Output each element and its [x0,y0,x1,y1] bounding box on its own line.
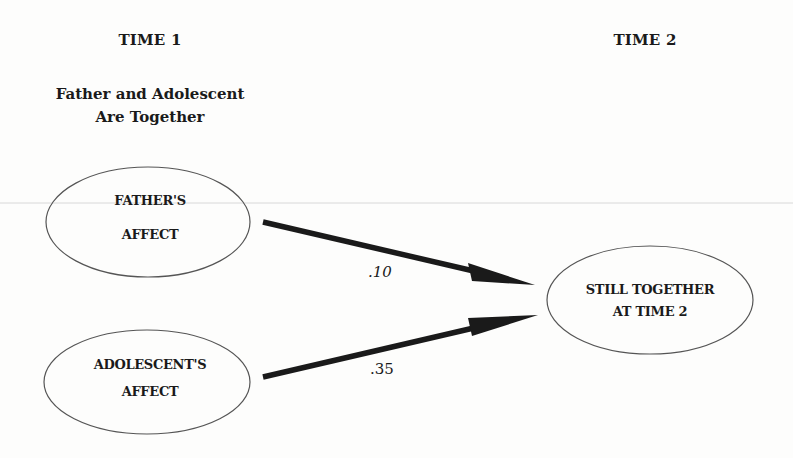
node-label-line2: AFFECT [60,381,240,403]
time2-header: TIME 2 [600,31,690,49]
arrow-adolescents-to-together [263,315,538,377]
node-label-line1: STILL TOGETHER [555,279,745,301]
node-ellipse-fathers-affect [46,167,250,277]
arrow-fathers-to-together [263,222,535,285]
time1-subtitle-line2: Are Together [30,106,270,128]
node-label-line2: AT TIME 2 [555,301,745,323]
node-label-line2: AFFECT [70,224,230,246]
node-label-line1: FATHER'S [70,190,230,212]
path-coefficient-fathers: .10 [368,263,392,281]
path-coefficient-adolescents: .35 [370,360,394,378]
time1-subtitle-line1: Father and Adolescent [30,83,270,105]
time1-header: TIME 1 [110,31,190,49]
node-label-line1: ADOLESCENT'S [60,354,240,376]
